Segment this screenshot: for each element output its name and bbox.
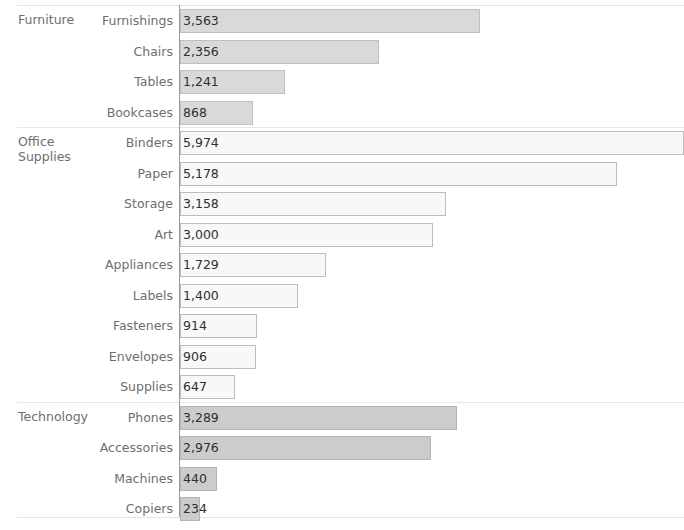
sub-category-label[interactable]: Envelopes (0, 342, 173, 373)
bar-row[interactable]: Fasteners914 (0, 311, 684, 342)
bar-track: 2,356 (180, 37, 684, 68)
bar-row[interactable]: Tables1,241 (0, 67, 684, 98)
bar-row[interactable]: Furnishings3,563 (0, 6, 684, 37)
sub-category-label[interactable]: Appliances (0, 250, 173, 281)
bar-chart: FurnitureOffice SuppliesTechnology Furni… (0, 0, 684, 530)
sub-category-label[interactable]: Phones (0, 403, 173, 434)
bar[interactable] (180, 192, 446, 216)
bar-row[interactable]: Storage3,158 (0, 189, 684, 220)
bar-track: 440 (180, 464, 684, 495)
bar-track: 868 (180, 98, 684, 129)
bar-row[interactable]: Machines440 (0, 464, 684, 495)
bar[interactable] (180, 131, 684, 155)
bar-track: 1,729 (180, 250, 684, 281)
bar[interactable] (180, 284, 298, 308)
bar[interactable] (180, 314, 257, 338)
sub-category-label[interactable]: Furnishings (0, 6, 173, 37)
bar[interactable] (180, 375, 235, 399)
bar-track: 647 (180, 372, 684, 403)
bar-row[interactable]: Copiers234 (0, 494, 684, 525)
bar-row[interactable]: Chairs2,356 (0, 37, 684, 68)
bar[interactable] (180, 101, 253, 125)
bar[interactable] (180, 223, 433, 247)
sub-category-label[interactable]: Accessories (0, 433, 173, 464)
bar[interactable] (180, 253, 326, 277)
sub-category-label[interactable]: Binders (0, 128, 173, 159)
bar-track: 1,241 (180, 67, 684, 98)
bar-track: 5,974 (180, 128, 684, 159)
sub-category-label[interactable]: Fasteners (0, 311, 173, 342)
bar[interactable] (180, 345, 256, 369)
bar-track: 3,563 (180, 6, 684, 37)
sub-category-label[interactable]: Machines (0, 464, 173, 495)
bar-track: 3,000 (180, 220, 684, 251)
bar-track: 3,158 (180, 189, 684, 220)
bar-track: 5,178 (180, 159, 684, 190)
bar-track: 234 (180, 494, 684, 525)
bar[interactable] (180, 497, 200, 521)
bar-row[interactable]: Labels1,400 (0, 281, 684, 312)
bar[interactable] (180, 40, 379, 64)
bar-row[interactable]: Phones3,289 (0, 403, 684, 434)
sub-category-label[interactable]: Chairs (0, 37, 173, 68)
bar[interactable] (180, 467, 217, 491)
bar[interactable] (180, 162, 617, 186)
bar-track: 906 (180, 342, 684, 373)
bar[interactable] (180, 406, 457, 430)
bar-row[interactable]: Bookcases868 (0, 98, 684, 129)
sub-category-label[interactable]: Labels (0, 281, 173, 312)
sub-category-label[interactable]: Tables (0, 67, 173, 98)
sub-category-label[interactable]: Art (0, 220, 173, 251)
sub-category-label[interactable]: Supplies (0, 372, 173, 403)
bar-row[interactable]: Accessories2,976 (0, 433, 684, 464)
bar-track: 1,400 (180, 281, 684, 312)
sub-category-label[interactable]: Copiers (0, 494, 173, 525)
bar-row[interactable]: Supplies647 (0, 372, 684, 403)
bar-track: 914 (180, 311, 684, 342)
bar-row[interactable]: Appliances1,729 (0, 250, 684, 281)
bar-track: 3,289 (180, 403, 684, 434)
bar[interactable] (180, 70, 285, 94)
sub-category-label[interactable]: Paper (0, 159, 173, 190)
bar-row[interactable]: Envelopes906 (0, 342, 684, 373)
bar[interactable] (180, 9, 480, 33)
sub-category-label[interactable]: Storage (0, 189, 173, 220)
bar-row[interactable]: Art3,000 (0, 220, 684, 251)
bar-row[interactable]: Binders5,974 (0, 128, 684, 159)
sub-category-label[interactable]: Bookcases (0, 98, 173, 129)
bar-row[interactable]: Paper5,178 (0, 159, 684, 190)
zero-axis-line (179, 5, 180, 517)
bar-track: 2,976 (180, 433, 684, 464)
bar[interactable] (180, 436, 431, 460)
